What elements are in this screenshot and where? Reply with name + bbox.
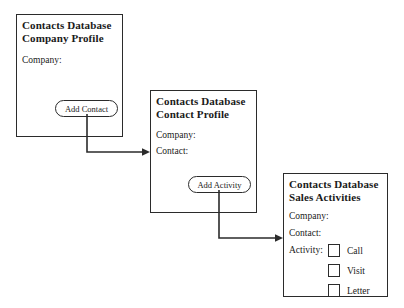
- title-line-1: Contacts Database: [289, 178, 382, 191]
- letter-checkbox-row: Letter: [328, 284, 370, 297]
- letter-checkbox-label: Letter: [347, 285, 370, 297]
- contact-profile-title: Contacts Database Contact Profile: [156, 95, 251, 121]
- visit-checkbox-row: Visit: [328, 264, 370, 277]
- visit-checkbox[interactable]: [328, 264, 340, 277]
- title-line-1: Contacts Database: [22, 19, 117, 32]
- activity-checkbox-group: Call Visit Letter: [328, 244, 370, 304]
- call-checkbox-row: Call: [328, 244, 370, 257]
- add-activity-button[interactable]: Add Activity: [188, 176, 251, 193]
- title-line-1: Contacts Database: [156, 95, 251, 108]
- title-line-2: Company Profile: [22, 32, 117, 45]
- company-profile-screen: Contacts Database Company Profile Compan…: [16, 14, 123, 137]
- activity-row: Activity: Call Visit Letter: [289, 244, 382, 304]
- add-contact-button[interactable]: Add Contact: [55, 100, 118, 117]
- title-line-2: Contact Profile: [156, 108, 251, 121]
- sales-activities-title: Contacts Database Sales Activities: [289, 178, 382, 204]
- activity-field-label: Activity:: [289, 244, 328, 256]
- title-line-2: Sales Activities: [289, 191, 382, 204]
- call-checkbox-label: Call: [347, 245, 363, 257]
- contact-field-label: Contact:: [289, 227, 382, 239]
- letter-checkbox[interactable]: [328, 284, 340, 297]
- company-field-label: Company:: [22, 54, 117, 66]
- call-checkbox[interactable]: [328, 244, 340, 257]
- company-profile-title: Contacts Database Company Profile: [22, 19, 117, 45]
- diagram-canvas: Contacts Database Company Profile Compan…: [0, 0, 404, 308]
- company-field-label: Company:: [156, 129, 251, 141]
- contact-profile-screen: Contacts Database Contact Profile Compan…: [150, 90, 257, 213]
- company-field-label: Company:: [289, 210, 382, 222]
- sales-activities-screen: Contacts Database Sales Activities Compa…: [283, 173, 388, 297]
- contact-field-label: Contact:: [156, 145, 251, 157]
- visit-checkbox-label: Visit: [347, 265, 365, 277]
